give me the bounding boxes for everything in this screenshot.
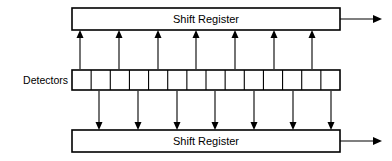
detectors-label: Detectors (23, 74, 68, 86)
up-arrow-6 (271, 30, 278, 69)
down-arrow-4-head (212, 122, 219, 130)
down-arrow-7 (328, 91, 335, 130)
down-arrow-3-head (174, 122, 181, 130)
down-arrow-2 (135, 91, 142, 130)
down-arrow-1-head (96, 122, 103, 130)
bottom-shift-register: Shift Register (72, 130, 340, 152)
up-arrow-2-head (116, 30, 123, 38)
up-arrow-2 (116, 30, 123, 69)
up-arrow-3 (155, 30, 162, 69)
detector-array: Detectors (23, 70, 340, 90)
bottom-output-arrow (340, 137, 382, 145)
down-arrow-3 (174, 91, 181, 130)
top-shift-register-label: Shift Register (173, 13, 239, 25)
up-arrow-7 (309, 30, 316, 69)
down-arrow-6-head (290, 122, 297, 130)
bottom-output-arrow-head (373, 137, 382, 145)
up-arrow-3-head (155, 30, 162, 38)
up-arrow-5-head (232, 30, 239, 38)
down-arrow-6 (290, 91, 297, 130)
up-arrow-6-head (271, 30, 278, 38)
down-arrow-2-head (135, 122, 142, 130)
down-arrow-5-head (251, 122, 258, 130)
bottom-shift-register-label: Shift Register (173, 135, 239, 147)
up-arrow-5 (232, 30, 239, 69)
up-arrow-7-head (309, 30, 316, 38)
top-output-arrow-head (373, 15, 382, 23)
down-arrow-group (96, 91, 335, 130)
up-arrow-4 (193, 30, 200, 69)
top-output-arrow (340, 15, 382, 23)
up-arrow-1-head (77, 30, 84, 38)
diagram-canvas: Shift Register (0, 0, 392, 161)
up-arrow-1 (77, 30, 84, 69)
down-arrow-7-head (328, 122, 335, 130)
down-arrow-4 (212, 91, 219, 130)
up-arrow-4-head (193, 30, 200, 38)
top-shift-register: Shift Register (72, 8, 340, 30)
down-arrow-1 (96, 91, 103, 130)
detector-shift-register-diagram: Shift Register (0, 0, 392, 161)
down-arrow-5 (251, 91, 258, 130)
up-arrow-group (77, 30, 316, 69)
